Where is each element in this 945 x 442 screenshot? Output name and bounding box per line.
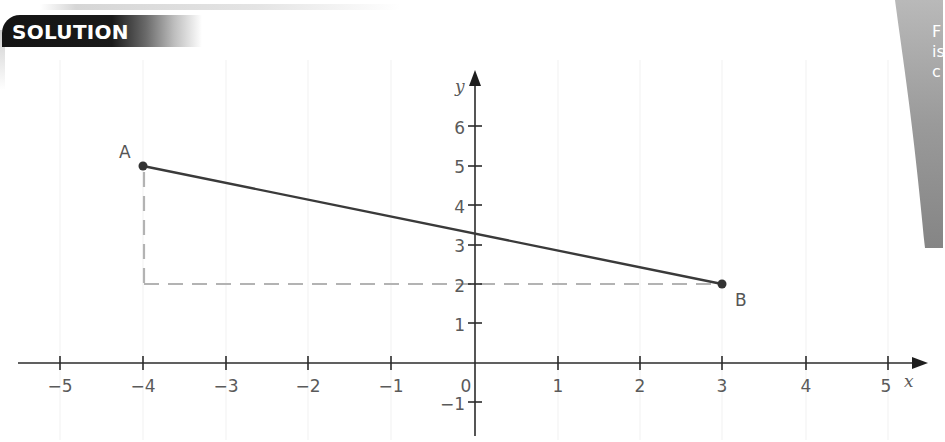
y-axis-label: y [454,76,465,96]
x-axis-arrow-icon [912,357,928,369]
svg-text:4: 4 [454,197,465,217]
svg-text:−4: −4 [130,376,155,396]
x-axis-label: x [904,371,914,391]
svg-text:4: 4 [801,376,812,396]
x-tick-labels: −5 −4 −3 −2 −1 0 1 2 3 4 5 [47,376,891,396]
svg-text:5: 5 [881,376,892,396]
svg-text:−1: −1 [440,394,465,414]
point-b-marker [718,280,727,289]
x-axis [18,356,916,370]
svg-text:−1: −1 [378,376,403,396]
point-a-marker [139,162,148,171]
svg-text:2: 2 [635,376,646,396]
faint-gridlines [60,60,888,440]
svg-text:−5: −5 [47,376,72,396]
segment-ab [143,166,722,284]
point-a-label: A [119,142,131,162]
svg-text:3: 3 [717,376,728,396]
svg-text:0: 0 [461,376,472,396]
svg-text:5: 5 [454,157,465,177]
y-axis-arrow-icon [469,70,481,86]
svg-text:1: 1 [553,376,564,396]
svg-text:2: 2 [454,276,465,296]
point-b-label: B [735,290,747,310]
svg-text:−3: −3 [213,376,238,396]
svg-text:6: 6 [454,118,465,138]
y-tick-labels: 6 5 4 3 2 1 −1 [440,118,465,414]
dashed-guides [144,172,716,284]
svg-text:−2: −2 [295,376,320,396]
svg-text:3: 3 [454,236,465,256]
svg-text:1: 1 [454,315,465,335]
